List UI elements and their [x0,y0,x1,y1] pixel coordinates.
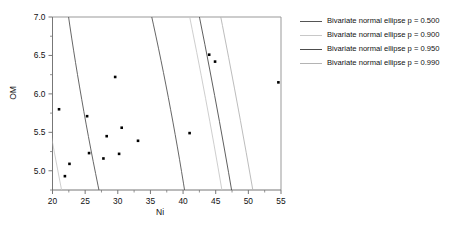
plot-frame [53,17,282,190]
legend-item-label: Bivariate normal ellipse p = 0.990 [327,56,440,70]
x-tick-label-45: 45 [211,196,221,206]
legend-line-swatch [300,63,322,64]
axis-ticks: 20253035404550555.05.56.06.57.0 [34,12,286,206]
data-point [208,53,211,56]
chart-legend: Bivariate normal ellipse p = 0.500Bivari… [300,14,440,70]
ellipse-p-0-9 [0,0,274,231]
legend-item-0[interactable]: Bivariate normal ellipse p = 0.500 [300,14,440,28]
data-point [88,152,91,155]
x-tick-label-40: 40 [178,196,188,206]
legend-item-label: Bivariate normal ellipse p = 0.900 [327,28,440,42]
x-tick-label-50: 50 [244,196,254,206]
x-tick-label-55: 55 [276,196,286,206]
x-tick-label-20: 20 [48,196,58,206]
data-points [58,53,280,177]
legend-item-2[interactable]: Bivariate normal ellipse p = 0.950 [300,42,440,56]
legend-item-label: Bivariate normal ellipse p = 0.950 [327,42,440,56]
data-point [68,163,71,166]
y-tick-label-6: 6.0 [34,89,46,99]
legend-item-3[interactable]: Bivariate normal ellipse p = 0.990 [300,56,440,70]
legend-line-swatch [300,35,322,36]
data-point [64,175,67,178]
x-tick-label-25: 25 [80,196,90,206]
x-tick-label-30: 30 [113,196,123,206]
data-point [277,81,280,84]
y-tick-label-5: 5.0 [34,166,46,176]
data-point [188,132,191,135]
data-point [120,126,123,129]
data-point [58,108,61,111]
data-point [102,157,105,160]
y-axis-title: OM [8,86,18,100]
data-point [214,60,217,63]
x-tick-label-35: 35 [146,196,156,206]
data-point [105,135,108,138]
legend-line-swatch [300,49,322,50]
x-axis-title: Ni [156,207,164,217]
data-point [114,76,117,79]
y-tick-label-6.5: 6.5 [34,50,46,60]
chart-figure: 20253035404550555.05.56.06.57.0 OM Ni Bi… [0,0,458,231]
legend-item-1[interactable]: Bivariate normal ellipse p = 0.900 [300,28,440,42]
legend-item-label: Bivariate normal ellipse p = 0.500 [327,14,440,28]
y-tick-label-7: 7.0 [34,12,46,22]
y-tick-label-5.5: 5.5 [34,127,46,137]
data-point [86,115,89,118]
data-point [137,139,140,142]
legend-line-swatch [300,21,322,22]
data-point [118,153,121,156]
